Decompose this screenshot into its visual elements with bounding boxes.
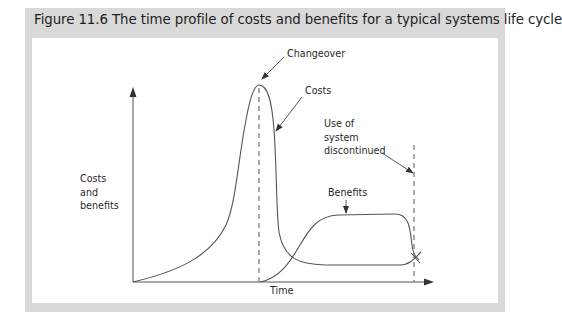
changeover-label: Changeover: [287, 47, 345, 61]
y-axis-label-line: benefits: [80, 199, 119, 213]
changeover-arrow-icon: [262, 57, 284, 79]
x-axis-label: Time: [270, 284, 293, 298]
use-discontinued-label-line: discontinued: [324, 144, 386, 158]
benefits-label: Benefits: [328, 186, 367, 200]
y-axis: [130, 87, 137, 282]
costs-arrow-icon: [276, 97, 302, 131]
y-axis-label: Costs and benefits: [80, 172, 119, 213]
y-axis-label-line: and: [80, 186, 119, 200]
use-discontinued-label: Use of system discontinued: [324, 117, 386, 158]
y-axis-label-line: Costs: [80, 172, 119, 186]
y-axis-arrow-icon: [130, 87, 137, 97]
costs-label: Costs: [305, 84, 331, 98]
discontinued-arrow-icon: [382, 153, 413, 173]
use-discontinued-label-line: system: [324, 131, 386, 145]
x-axis-arrow-icon: [424, 279, 434, 286]
costs-curve: [133, 85, 421, 282]
use-discontinued-label-line: Use of: [324, 117, 386, 131]
